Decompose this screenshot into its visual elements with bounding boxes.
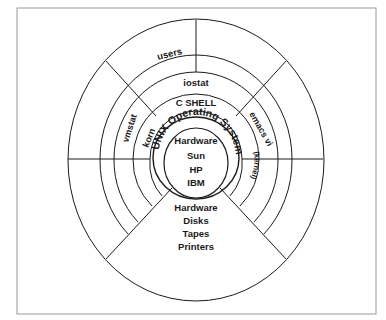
core-item: HP bbox=[189, 164, 203, 175]
wedge-item: Printers bbox=[178, 241, 214, 252]
core-title: Hardware bbox=[174, 135, 217, 146]
unix-layer-diagram: users iostat C SHELL vmstat korn emacs v… bbox=[0, 0, 386, 320]
core-item: Sun bbox=[187, 150, 205, 161]
wedge-item: Disks bbox=[183, 215, 208, 226]
wedge-title: Hardware bbox=[174, 202, 217, 213]
core-item: IBM bbox=[187, 177, 205, 188]
wedge-item: Tapes bbox=[183, 228, 210, 239]
label-iostat: iostat bbox=[183, 77, 209, 88]
